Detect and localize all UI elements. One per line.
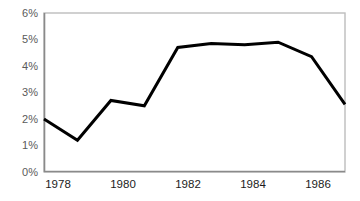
- line-chart: 6% 5% 4% 3% 2% 1% 0% 1978 1980 1982 1984…: [0, 0, 360, 201]
- y-tick-label-6: 6%: [4, 8, 38, 19]
- x-tick-label-1984: 1984: [230, 178, 276, 190]
- x-tick-label-1978: 1978: [35, 178, 81, 190]
- plot-frame: [44, 13, 345, 172]
- data-series-line: [44, 42, 345, 140]
- y-tick-label-3: 3%: [4, 87, 38, 98]
- y-tick-label-5: 5%: [4, 34, 38, 45]
- x-tick-label-1982: 1982: [165, 178, 211, 190]
- y-tick-label-1: 1%: [4, 140, 38, 151]
- y-tick-label-2: 2%: [4, 114, 38, 125]
- y-tick-label-0: 0%: [4, 167, 38, 178]
- y-tick-label-4: 4%: [4, 61, 38, 72]
- x-tick-label-1980: 1980: [100, 178, 146, 190]
- x-tick-label-1986: 1986: [295, 178, 341, 190]
- chart-canvas: [0, 0, 360, 201]
